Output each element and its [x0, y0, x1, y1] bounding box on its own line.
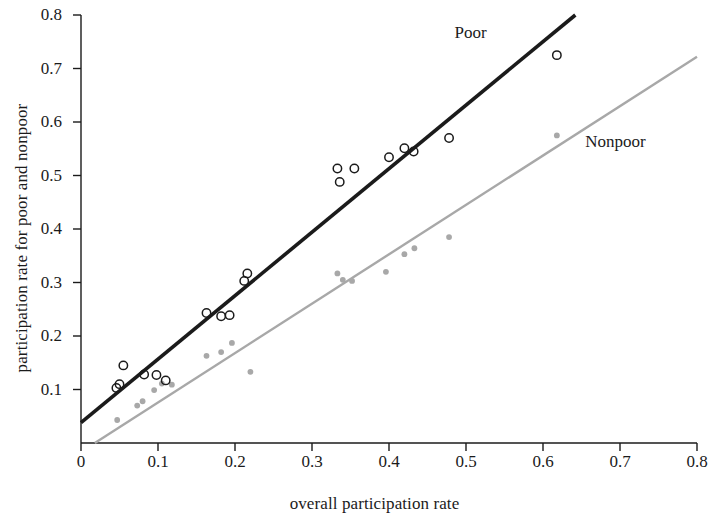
data-point-nonpoor: [151, 387, 157, 393]
data-point-poor: [333, 164, 341, 172]
data-points-nonpoor: [114, 132, 559, 422]
data-point-nonpoor: [340, 277, 346, 283]
series-label-nonpoor: Nonpoor: [585, 132, 645, 152]
data-point-poor: [385, 153, 393, 161]
x-tick-label: 0.5: [443, 452, 489, 472]
data-point-poor: [243, 269, 251, 277]
series-label-poor: Poor: [454, 23, 486, 43]
regression-line-poor: [81, 15, 575, 423]
x-tick-label: 0.6: [520, 452, 566, 472]
data-point-nonpoor: [554, 132, 560, 138]
data-point-poor: [336, 178, 344, 186]
data-point-poor: [400, 144, 408, 152]
regression-line-nonpoor: [95, 57, 697, 443]
x-tick-label: 0.7: [597, 452, 643, 472]
data-point-nonpoor: [114, 417, 120, 423]
data-point-poor: [202, 309, 210, 317]
data-point-poor: [445, 134, 453, 142]
x-axis-tick-marks: [81, 443, 697, 451]
data-point-nonpoor: [248, 369, 254, 375]
data-point-nonpoor: [412, 245, 418, 251]
plot-canvas: [0, 0, 709, 520]
data-point-poor: [217, 312, 225, 320]
data-point-nonpoor: [402, 251, 408, 257]
data-point-poor: [152, 371, 160, 379]
data-point-nonpoor: [383, 269, 389, 275]
data-point-poor: [119, 361, 127, 369]
x-tick-label: 0.1: [135, 452, 181, 472]
x-tick-label: 0.2: [212, 452, 258, 472]
data-point-nonpoor: [204, 353, 210, 359]
axes: [81, 15, 697, 443]
x-tick-label: 0.3: [289, 452, 335, 472]
data-point-nonpoor: [218, 349, 224, 355]
x-tick-label: 0.8: [674, 452, 709, 472]
data-point-nonpoor: [140, 398, 146, 404]
data-point-nonpoor: [229, 340, 235, 346]
x-axis-title: overall participation rate: [0, 494, 709, 514]
x-tick-label: 0: [58, 452, 104, 472]
data-point-poor: [553, 51, 561, 59]
y-axis-title: participation rate for poor and nonpoor: [12, 3, 32, 473]
data-point-poor: [350, 164, 358, 172]
data-point-nonpoor: [349, 278, 355, 284]
data-point-nonpoor: [335, 271, 341, 277]
data-point-nonpoor: [134, 403, 140, 409]
x-tick-label: 0.4: [366, 452, 412, 472]
data-point-poor: [225, 311, 233, 319]
scatter-plot-figure: 00.10.20.30.40.50.60.70.8 0.10.20.30.40.…: [0, 0, 709, 520]
regression-lines: [81, 15, 697, 443]
data-point-nonpoor: [446, 234, 452, 240]
data-point-poor: [162, 376, 170, 384]
y-axis-tick-marks: [73, 15, 81, 390]
